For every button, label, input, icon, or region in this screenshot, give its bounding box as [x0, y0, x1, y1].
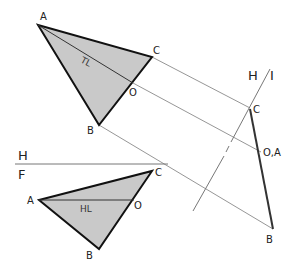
top-view-triangle [38, 25, 152, 125]
projector-c [152, 57, 250, 108]
projector-o [133, 83, 261, 152]
folding-line-hi-dash [226, 146, 229, 152]
front-label-b: B [86, 250, 93, 261]
edge-view-line [250, 109, 273, 229]
top-label-a: A [40, 11, 47, 22]
hf-label-f: F [18, 167, 25, 182]
hf-label-h: H [18, 148, 28, 163]
front-label-a: A [27, 195, 34, 206]
front-label-c: C [155, 167, 162, 178]
edge-label-oa: O,A [263, 147, 281, 158]
front-label-o: O [134, 200, 142, 211]
hi-label-i: I [270, 68, 274, 83]
horizontal-line-label: HL [80, 204, 92, 214]
top-label-o: O [129, 87, 137, 98]
top-label-b: B [87, 125, 94, 136]
edge-label-b: B [266, 234, 273, 245]
edge-label-c: C [253, 104, 260, 115]
auxiliary-view-diagram: A C B O TL H F A C O B HL H I C O,A B [0, 0, 296, 271]
hi-label-h: H [248, 68, 258, 83]
top-label-c: C [153, 45, 160, 56]
